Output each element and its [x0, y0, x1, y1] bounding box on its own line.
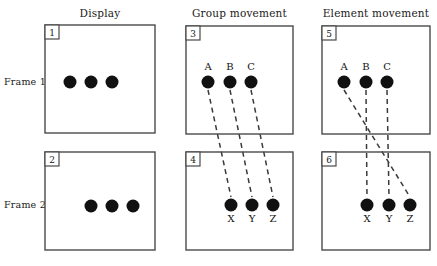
- panel-4: 4 X Y Z: [186, 152, 293, 250]
- panel-1-number: 1: [49, 28, 55, 38]
- panel-6-number: 6: [326, 155, 332, 165]
- panel-3: 3 A B C: [186, 26, 293, 134]
- dot-C5: [381, 76, 394, 89]
- dot-X4: [225, 199, 238, 212]
- dot-C3-label: C: [247, 61, 255, 72]
- dot-B3: [224, 76, 237, 89]
- panel-3-number: 3: [190, 29, 196, 39]
- dot-Y4-label: Y: [248, 213, 256, 224]
- dot-B3-label: B: [226, 61, 233, 72]
- dot-X6: [361, 199, 374, 212]
- panel-4-number: 4: [190, 155, 196, 165]
- panel-1: 1: [45, 25, 155, 133]
- panel-5-number: 5: [326, 29, 332, 39]
- dot-C5-label: C: [383, 61, 391, 72]
- dot-1b: [85, 76, 98, 89]
- panel-2-border: [45, 152, 155, 250]
- dot-C3: [245, 76, 258, 89]
- element-movement-correspondence-lines: [344, 90, 410, 197]
- dot-A3: [202, 76, 215, 89]
- group-A-to-X-line: [208, 90, 231, 197]
- dot-2a: [85, 200, 98, 213]
- dot-Y6-label: Y: [385, 213, 393, 224]
- dot-X4-label: X: [227, 213, 235, 224]
- group-B-to-Y-line: [230, 90, 252, 197]
- panel-2: 2: [45, 152, 155, 250]
- group-C-to-Z-line: [251, 90, 273, 197]
- dot-2c: [127, 200, 140, 213]
- element-B-to-X-line: [366, 90, 367, 197]
- element-A-to-Z-line: [344, 90, 410, 197]
- panel-6: 6 X Y Z: [322, 152, 430, 250]
- panel-2-number: 2: [49, 155, 55, 165]
- dot-Z6-label: Z: [407, 213, 414, 224]
- dot-A3-label: A: [203, 61, 212, 72]
- dot-A5: [338, 76, 351, 89]
- panel-1-border: [45, 25, 155, 133]
- dot-1c: [106, 76, 119, 89]
- dot-Z6: [404, 199, 417, 212]
- dot-Z4: [267, 199, 280, 212]
- dot-B5: [360, 76, 373, 89]
- dot-Z4-label: Z: [270, 213, 277, 224]
- dot-Y4: [246, 199, 259, 212]
- dot-X6-label: X: [363, 213, 371, 224]
- dot-A5-label: A: [339, 61, 348, 72]
- dot-Y6: [383, 199, 396, 212]
- group-movement-correspondence-lines: [208, 90, 273, 197]
- dot-B5-label: B: [362, 61, 369, 72]
- panel-5: 5 A B C: [322, 26, 430, 134]
- figure-canvas: 1 2 3 A B C: [0, 0, 437, 266]
- dot-1a: [64, 76, 77, 89]
- movement-correspondence-figure: Display Group movement Element movement …: [0, 0, 437, 266]
- dot-2b: [106, 200, 119, 213]
- element-C-to-Y-line: [387, 90, 389, 197]
